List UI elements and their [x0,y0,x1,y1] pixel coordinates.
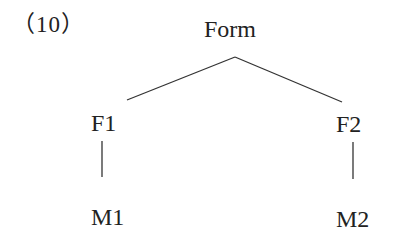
edge-form-f2 [235,57,342,102]
node-f2: F2 [336,112,361,136]
node-f1: F1 [91,111,116,135]
edge-form-f1 [127,57,235,100]
node-m2: M2 [336,207,369,231]
node-m1: M1 [91,205,124,229]
